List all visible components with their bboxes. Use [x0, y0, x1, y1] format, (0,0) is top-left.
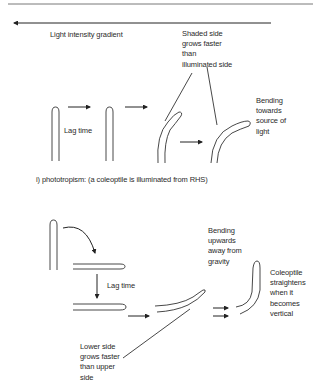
- bending-toward-light-note: Bending towards source of light: [256, 96, 286, 137]
- shaded-note: Shaded side grows faster than illuminate…: [182, 29, 232, 70]
- coleoptile-2: [106, 107, 113, 161]
- pointer-line-1: [165, 73, 192, 121]
- coleoptile-1: [52, 107, 59, 161]
- coleoptile-3: [158, 112, 182, 163]
- diagram-canvas: [0, 0, 313, 385]
- straightens-note: Coleoptile straightens when it becomes v…: [270, 268, 306, 319]
- phototropism-caption: i) phototropism: (a coleoptile is illumi…: [36, 175, 208, 185]
- coleoptile-horizontal-2: [73, 304, 126, 310]
- pointer-line-2: [207, 67, 217, 125]
- lag-time-label-2: Lag time: [107, 281, 135, 291]
- lag-time-label-1: Lag time: [64, 126, 92, 136]
- gradient-label: Light intensity gradient: [50, 30, 123, 40]
- coleoptile-straightening: [236, 261, 260, 314]
- bending-away-gravity-note: Bending upwards away from gravity: [208, 226, 242, 267]
- coleoptile-vertical: [50, 220, 57, 270]
- coleoptile-4: [211, 121, 250, 163]
- curved-arrow: [63, 227, 95, 253]
- coleoptile-curving: [155, 290, 205, 312]
- lower-side-note: Lower side grows faster than upper side: [80, 342, 120, 383]
- coleoptile-horizontal-1: [73, 264, 125, 269]
